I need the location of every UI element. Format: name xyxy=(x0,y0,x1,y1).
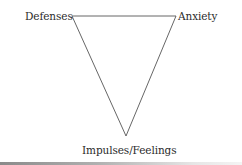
bottom-divider xyxy=(0,162,242,165)
triangle-diagram: Defenses Anxiety Impulses/Feelings xyxy=(0,0,242,165)
vertex-label-defenses: Defenses xyxy=(25,11,73,22)
vertex-label-anxiety: Anxiety xyxy=(178,11,217,22)
triangle-outline xyxy=(72,16,176,136)
triangle-shape xyxy=(0,0,242,165)
vertex-label-impulses-feelings: Impulses/Feelings xyxy=(82,145,177,156)
